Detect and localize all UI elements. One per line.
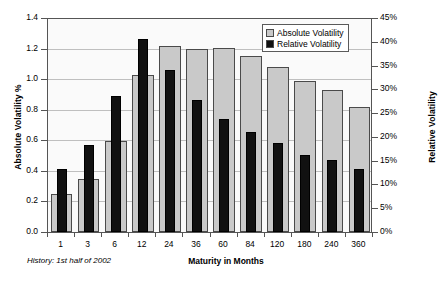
y-axis-right-tick-label: 20% — [380, 131, 412, 141]
y-axis-left-tick — [41, 49, 47, 50]
y-axis-right-tick-label: 45% — [380, 12, 412, 22]
bar-group — [238, 18, 265, 232]
x-axis-tick — [264, 232, 265, 237]
bar-group — [211, 18, 238, 232]
x-axis-tick — [182, 232, 183, 237]
y-axis-left-tick-label: 0.2 — [2, 195, 38, 205]
bar-group — [183, 18, 210, 232]
bar-relative-volatility — [57, 169, 67, 232]
volatility-bar-chart: Absolute Volatility % Relative Volatilit… — [0, 0, 438, 282]
bar-relative-volatility — [300, 155, 310, 233]
x-axis-tick — [47, 232, 48, 237]
chart-legend: Absolute VolatilityRelative Volatility — [262, 24, 349, 52]
legend-label: Absolute Volatility — [277, 28, 344, 38]
x-axis-tick — [155, 232, 156, 237]
y-axis-right-tick — [372, 137, 378, 138]
y-axis-right-tick — [372, 161, 378, 162]
x-axis-tick — [101, 232, 102, 237]
y-axis-right-tick-label: 0% — [380, 226, 412, 236]
x-axis-tick — [128, 232, 129, 237]
y-axis-right-tick-label: 15% — [380, 155, 412, 165]
bar-relative-volatility — [219, 119, 229, 232]
y-axis-right-tick-label: 5% — [380, 202, 412, 212]
y-axis-left-tick — [41, 110, 47, 111]
x-axis-tick — [74, 232, 75, 237]
y-axis-right-title: Relative Volatility — [427, 57, 437, 197]
x-axis-tick-label: 360 — [338, 239, 378, 249]
y-axis-right-tick — [372, 113, 378, 114]
y-axis-left-tick-label: 0.8 — [2, 104, 38, 114]
x-axis-tick — [210, 232, 211, 237]
y-axis-right-tick-label: 40% — [380, 36, 412, 46]
y-axis-right-tick — [372, 184, 378, 185]
bar-relative-volatility — [138, 39, 148, 232]
y-axis-right-tick — [372, 18, 378, 19]
x-axis-tick — [345, 232, 346, 237]
x-axis-title: Maturity in Months — [146, 256, 306, 266]
y-axis-left-tick — [41, 201, 47, 202]
y-axis-left-tick — [41, 140, 47, 141]
legend-item: Absolute Volatility — [266, 27, 344, 38]
bar-group — [75, 18, 102, 232]
x-axis-tick — [291, 232, 292, 237]
y-axis-right-tick-label: 35% — [380, 60, 412, 70]
y-axis-right-tick — [372, 89, 378, 90]
y-axis-left-tick — [41, 18, 47, 19]
y-axis-right-tick — [372, 208, 378, 209]
y-axis-right-tick-label: 25% — [380, 107, 412, 117]
x-axis-tick — [237, 232, 238, 237]
bar-relative-volatility — [273, 143, 283, 232]
bar-group — [102, 18, 129, 232]
legend-swatch-icon — [266, 29, 274, 37]
legend-swatch-icon — [266, 40, 274, 48]
bar-relative-volatility — [354, 169, 364, 232]
bar-group — [129, 18, 156, 232]
bar-relative-volatility — [246, 132, 256, 232]
y-axis-left-tick-label: 0.0 — [2, 226, 38, 236]
bar-group — [346, 18, 373, 232]
legend-item: Relative Volatility — [266, 38, 344, 49]
plot-top-border — [47, 18, 372, 19]
y-axis-left-tick — [41, 171, 47, 172]
x-axis-tick — [372, 232, 373, 237]
bar-relative-volatility — [111, 96, 121, 232]
bar-relative-volatility — [327, 160, 337, 232]
bar-group — [156, 18, 183, 232]
bar-group — [48, 18, 75, 232]
x-axis-tick — [318, 232, 319, 237]
y-axis-right-tick-label: 10% — [380, 178, 412, 188]
y-axis-left-tick-label: 1.0 — [2, 73, 38, 83]
y-axis-left-tick-label: 1.4 — [2, 12, 38, 22]
bar-relative-volatility — [84, 145, 94, 232]
y-axis-right-tick — [372, 66, 378, 67]
bar-relative-volatility — [192, 100, 202, 232]
y-axis-left-tick-label: 0.6 — [2, 134, 38, 144]
bar-relative-volatility — [165, 70, 175, 232]
y-axis-left-tick-label: 0.4 — [2, 165, 38, 175]
y-axis-right-tick — [372, 42, 378, 43]
y-axis-right-tick-label: 30% — [380, 83, 412, 93]
y-axis-left-tick — [41, 79, 47, 80]
y-axis-left-tick-label: 1.2 — [2, 43, 38, 53]
chart-footnote: History: 1st half of 2002 — [27, 256, 111, 265]
legend-label: Relative Volatility — [277, 39, 341, 49]
